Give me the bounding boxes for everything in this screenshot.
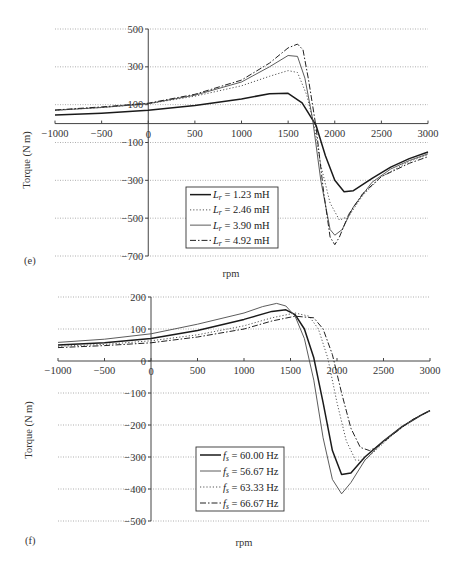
x-tick-label: 2000 (327, 365, 348, 376)
x-tick-label: 1000 (231, 128, 252, 139)
y-tick-label: 100 (130, 324, 146, 335)
x-tick-label: 2500 (373, 365, 394, 376)
figure: 500300100−100−300−500−700−1000−500050010… (0, 0, 459, 568)
x-tick-label: −500 (91, 128, 113, 139)
x-tick-label: 2500 (371, 128, 392, 139)
x-tick-label: 1500 (280, 365, 301, 376)
y-tick-label: −500 (124, 516, 146, 527)
series-line (58, 313, 430, 460)
y-tick-label: 200 (130, 292, 146, 303)
x-axis-title: rpm (223, 268, 240, 279)
y-axis-title: Torque (N m) (21, 131, 33, 189)
series-line (58, 316, 430, 450)
y-tick-label: −500 (122, 213, 144, 224)
y-tick-label: 300 (128, 61, 144, 72)
x-tick-label: 0 (148, 366, 153, 377)
x-tick-label: 1500 (278, 128, 299, 139)
chart-e: 500300100−100−300−500−700−1000−500050010… (21, 24, 439, 280)
x-tick-label: 1000 (234, 365, 255, 376)
y-tick-label: 500 (128, 24, 144, 35)
y-tick-label: −100 (122, 137, 144, 148)
x-tick-label: 2000 (324, 128, 345, 139)
x-axis-title: rpm (236, 537, 253, 548)
x-tick-label: 3000 (420, 365, 441, 376)
x-tick-label: 500 (190, 365, 206, 376)
x-tick-label: −1000 (42, 128, 69, 139)
y-tick-label: −400 (124, 484, 146, 495)
chart-f: 2001000−100−200−300−400−500−1000−5000500… (23, 292, 441, 549)
x-tick-label: −500 (94, 365, 116, 376)
legend: Lr = 1.23 mHLr = 2.46 mHLr = 3.90 mHLr =… (186, 187, 278, 248)
y-axis-title: Torque (N m) (23, 401, 35, 459)
y-tick-label: −300 (124, 452, 146, 463)
x-tick-label: 0 (146, 129, 151, 140)
x-tick-label: −1000 (45, 365, 72, 376)
y-tick-label: −100 (124, 388, 146, 399)
y-tick-label: −300 (122, 175, 144, 186)
legend: fs = 60.00 Hzfs = 56.67 Hzfs = 63.33 Hzf… (196, 447, 284, 511)
y-tick-label: −200 (124, 420, 146, 431)
x-tick-label: 500 (187, 128, 203, 139)
panel-label: (f) (25, 535, 36, 547)
x-tick-label: 3000 (418, 128, 439, 139)
panel-label: (e) (24, 255, 36, 267)
y-tick-label: −700 (122, 251, 144, 262)
